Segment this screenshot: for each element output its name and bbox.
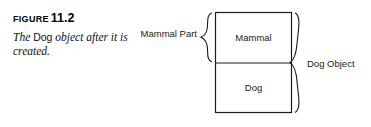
figure-caption-block: Figure11.2 The Dog object after it is cr…: [13, 12, 133, 58]
mammal-box-label: Mammal: [235, 32, 271, 43]
figure-title: Figure11.2: [13, 12, 133, 25]
caption-code-identifier: Dog: [33, 31, 52, 43]
figure-label-word: Figure: [13, 11, 49, 25]
dog-object-brace-label: Dog Object: [307, 58, 355, 69]
figure-caption-text: The Dog object after it is created.: [13, 30, 131, 58]
caption-segment-leading: The: [13, 31, 33, 43]
mammal-part-brace-label: Mammal Part: [141, 28, 198, 39]
figure-number: 11.2: [51, 11, 75, 25]
dog-box-label: Dog: [245, 82, 262, 93]
object-layout-diagram: Mammal Part Mammal Dog Dog Object: [133, 0, 371, 127]
mammal-part-brace-icon: [201, 13, 212, 62]
